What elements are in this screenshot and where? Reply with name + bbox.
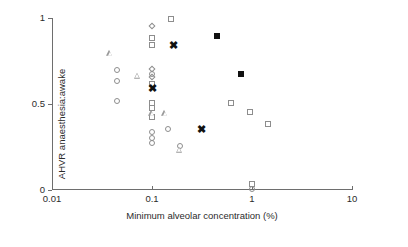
y-tick-mark — [48, 190, 52, 191]
data-point-bold-x: ✖ — [197, 123, 206, 134]
x-tick-label: 0.1 — [145, 194, 158, 204]
data-point-open-square — [228, 100, 234, 106]
x-axis-line — [52, 189, 352, 190]
y-tick-mark — [48, 104, 52, 105]
x-tick-label: 10 — [347, 194, 358, 204]
data-point-open-square — [168, 16, 174, 22]
x-tick-mark — [52, 186, 53, 190]
data-point-open-triangle — [162, 110, 168, 116]
x-axis-title: Minimum alveolar concentration (%) — [52, 210, 352, 221]
data-point-open-square — [149, 35, 155, 41]
data-point-open-triangle — [135, 72, 141, 78]
data-point-open-circle — [165, 126, 171, 132]
data-point-open-triangle — [107, 50, 113, 56]
data-point-bold-x: ✖ — [169, 39, 178, 50]
data-point-filled-square — [214, 33, 220, 39]
x-tick-label: 1 — [249, 194, 254, 204]
data-point-open-triangle — [177, 146, 183, 152]
x-tick-label: 0.01 — [43, 194, 62, 204]
data-point-open-square — [247, 109, 253, 115]
plot-area: 00.51 0.010.1110 ✖✖✖ — [52, 18, 352, 190]
data-point-open-square — [249, 181, 255, 187]
data-point-open-circle — [114, 67, 120, 73]
scatter-plot-figure: AHVR anaesthesia:awake Minimum alveolar … — [0, 0, 408, 247]
y-tick-mark — [48, 18, 52, 19]
data-point-open-square — [149, 42, 155, 48]
y-tick-label: 1 — [40, 13, 45, 23]
data-point-open-square — [265, 121, 271, 127]
data-point-open-circle — [114, 78, 120, 84]
data-point-bold-x: ✖ — [148, 82, 157, 93]
data-point-open-circle — [249, 186, 255, 192]
data-point-open-circle — [114, 98, 120, 104]
data-point-filled-square — [238, 71, 244, 77]
data-point-open-diamond — [148, 22, 155, 29]
y-tick-label: 0.5 — [32, 99, 45, 109]
data-point-open-triangle — [149, 110, 155, 116]
x-tick-mark — [352, 186, 353, 190]
data-point-open-circle — [149, 140, 155, 146]
y-axis-line — [52, 18, 53, 190]
x-tick-mark — [152, 186, 153, 190]
